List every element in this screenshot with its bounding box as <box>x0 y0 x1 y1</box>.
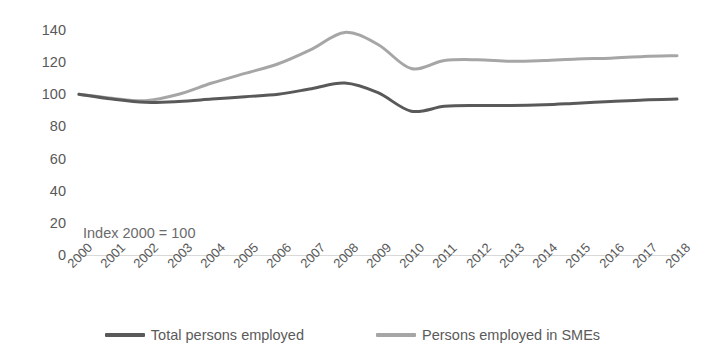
legend-item[interactable]: Persons employed in SMEs <box>376 328 600 343</box>
plot-area <box>74 30 682 255</box>
y-axis-tick-label: 80 <box>18 119 66 134</box>
y-axis-tick-label: 0 <box>18 248 66 263</box>
x-axis: 2000200120022003200420052006200720082009… <box>74 255 682 315</box>
y-axis-tick-label: 60 <box>18 151 66 166</box>
legend-line-swatch-icon <box>105 333 145 337</box>
series-lines <box>74 30 682 255</box>
index-line-chart: 140120100806040200 Index 2000 = 100 2000… <box>0 0 705 355</box>
index-annotation: Index 2000 = 100 <box>83 226 195 241</box>
chart-legend: Total persons employedPersons employed i… <box>0 328 705 343</box>
y-axis-tick-label: 40 <box>18 183 66 198</box>
legend-line-swatch-icon <box>376 333 416 337</box>
legend-item[interactable]: Total persons employed <box>105 328 304 343</box>
x-axis-tick-label: 2000 <box>65 241 95 271</box>
y-axis-tick-label: 140 <box>18 23 66 38</box>
y-axis-tick-label: 20 <box>18 216 66 231</box>
legend-item-label: Persons employed in SMEs <box>422 328 600 343</box>
legend-item-label: Total persons employed <box>151 328 304 343</box>
y-axis: 140120100806040200 <box>18 0 66 355</box>
series-line <box>79 32 677 100</box>
y-axis-tick-label: 120 <box>18 55 66 70</box>
y-axis-tick-label: 100 <box>18 87 66 102</box>
